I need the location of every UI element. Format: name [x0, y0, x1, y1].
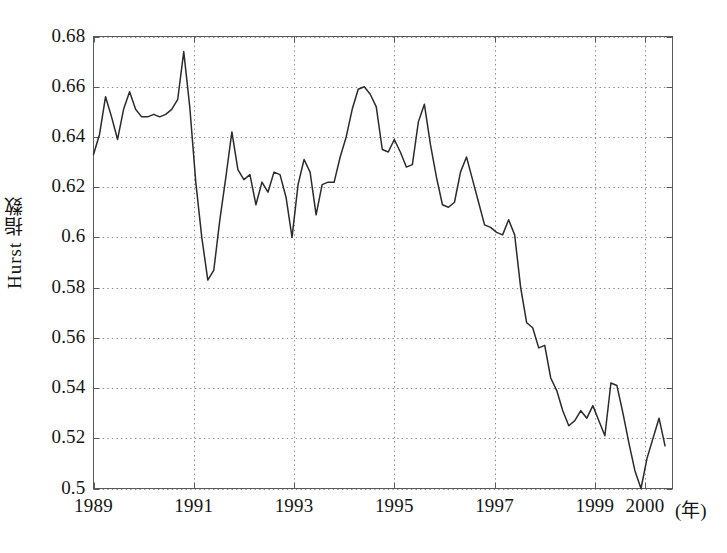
series-line-0: [94, 52, 666, 489]
x-tick-label: 1995: [354, 495, 434, 517]
x-axis-unit-label: (年): [675, 495, 707, 522]
y-tick-label: 0.54: [51, 376, 85, 398]
plot-canvas: [0, 0, 727, 553]
plot-frame-border: [94, 37, 673, 489]
x-tick-label: 1991: [154, 495, 234, 517]
caption-fragment: [0, 543, 727, 553]
y-tick-label: 0.68: [51, 25, 85, 47]
y-tick-label: 0.64: [51, 125, 85, 147]
y-tick-label: 0.56: [51, 326, 85, 348]
x-tick-label: 1989: [54, 495, 134, 517]
x-tick-label: 1997: [455, 495, 535, 517]
data-series-layer: [94, 52, 666, 489]
y-tick-label: 0.58: [51, 276, 85, 298]
grid-lines: [94, 37, 673, 490]
y-tick-label: 0.52: [51, 426, 85, 448]
y-tick-label: 0.6: [61, 225, 85, 247]
y-tick-label: 0.62: [51, 175, 85, 197]
y-tick-label: 0.66: [51, 75, 85, 97]
x-tick-label: 1993: [254, 495, 334, 517]
x-tick-label: 2000: [605, 495, 685, 517]
tick-marks: [94, 37, 673, 490]
hurst-index-chart-figure: Hurst 指数 0.50.520.540.560.580.60.620.640…: [0, 0, 727, 553]
